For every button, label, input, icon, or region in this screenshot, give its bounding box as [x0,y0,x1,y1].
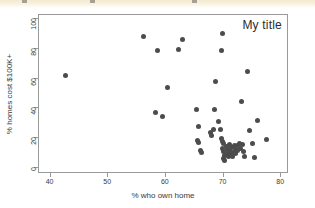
scatter-point [194,107,199,112]
scatter-point [165,85,170,90]
scatter-chart-figure: My title % who own home % homes cost $10… [0,8,315,208]
scatter-point [247,128,252,133]
plot-area: My title [38,14,288,173]
scatter-point [250,141,255,146]
x-axis-tick-label: 80 [276,178,284,185]
x-axis-tick [50,173,51,177]
scatter-point [199,150,204,155]
scatter-point [239,99,244,104]
y-axis-tick-label: 40 [30,107,37,115]
scatter-point [155,48,160,53]
toolbar-smudge-icon [192,0,197,3]
scatter-point [219,48,224,53]
scatter-point [220,31,225,36]
toolbar-smudge-icon [22,0,27,3]
scatter-point [196,124,201,129]
toolbar-smudge-icon [90,0,95,3]
x-axis-tick [165,173,166,177]
y-axis-tick-label: 100 [30,18,37,30]
y-axis-label: % homes cost $100K+ [5,54,14,134]
scatter-point [196,140,201,145]
scatter-point [160,114,165,119]
scatter-point [209,133,214,138]
scatter-point [212,107,217,112]
scatter-point [264,137,269,142]
scatter-point [245,69,250,74]
scatter-point [213,79,218,84]
scatter-point [242,154,247,159]
toolbar-remnant-strip [0,0,315,8]
x-axis-tick-label: 60 [161,178,169,185]
y-axis-tick-label: 80 [30,48,37,56]
scatter-point [252,155,257,160]
x-axis-tick-label: 40 [46,178,54,185]
x-axis-tick [280,173,281,177]
scatter-point [141,34,146,39]
scatter-point [153,110,158,115]
x-axis-tick [223,173,224,177]
y-axis-tick-label: 60 [30,78,37,86]
x-axis-label: % who own home [131,191,194,200]
y-axis-tick-label: 20 [30,137,37,145]
scatter-point [218,127,223,132]
chart-title: My title [242,18,282,32]
x-axis-tick [107,173,108,177]
x-axis-tick-label: 50 [103,178,111,185]
x-axis-tick-label: 70 [219,178,227,185]
screenshot-root: My title % who own home % homes cost $10… [0,0,315,208]
scatter-point [211,127,216,132]
scatter-point [176,47,181,52]
y-axis-tick-label: 0 [30,167,37,171]
scatter-point [255,118,260,123]
scatter-point [63,73,68,78]
scatter-point [240,142,245,147]
scatter-point [180,37,185,42]
scatter-point [216,119,221,124]
